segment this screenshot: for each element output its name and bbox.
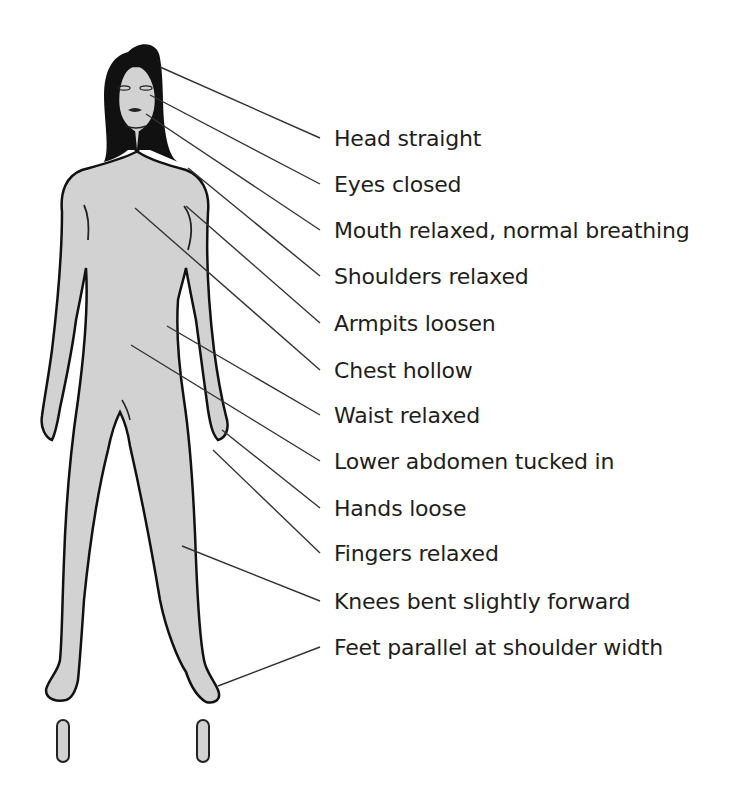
left-foot-marker xyxy=(57,720,69,762)
label-eyes-closed: Eyes closed xyxy=(334,172,461,198)
posture-diagram: Head straight Eyes closed Mouth relaxed,… xyxy=(0,0,755,794)
label-shoulders-relaxed: Shoulders relaxed xyxy=(334,264,529,290)
label-chest-hollow: Chest hollow xyxy=(334,358,473,384)
label-waist-relaxed: Waist relaxed xyxy=(334,403,480,429)
label-feet-parallel: Feet parallel at shoulder width xyxy=(334,635,663,661)
label-mouth-relaxed: Mouth relaxed, normal breathing xyxy=(334,218,689,244)
label-knees-bent: Knees bent slightly forward xyxy=(334,589,630,615)
label-armpits-loosen: Armpits loosen xyxy=(334,311,495,337)
label-head-straight: Head straight xyxy=(334,126,481,152)
label-fingers-relaxed: Fingers relaxed xyxy=(334,541,499,567)
label-hands-loose: Hands loose xyxy=(334,496,466,522)
label-lower-abdomen: Lower abdomen tucked in xyxy=(334,449,614,475)
human-figure-illustration xyxy=(0,0,755,794)
right-foot-marker xyxy=(197,720,209,762)
body-silhouette xyxy=(42,66,228,703)
